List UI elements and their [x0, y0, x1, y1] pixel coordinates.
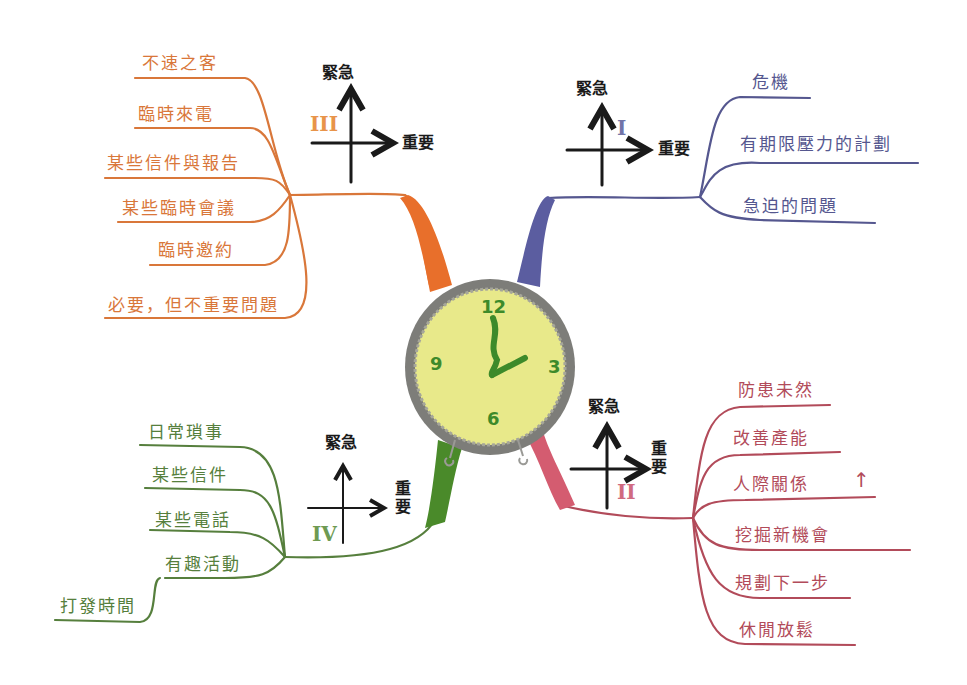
q2-item-4: 規劃下一步	[735, 573, 830, 593]
clock-number-3: 3	[548, 358, 561, 376]
q4-item-3: 有趣活動	[165, 554, 241, 574]
q1-axis-urgent-label: 緊急	[576, 80, 608, 98]
q2-item-3: 挖掘新機會	[735, 525, 830, 545]
clock-number-9: 9	[430, 355, 443, 373]
q2-up-arrow-icon: ↑	[853, 470, 872, 490]
q1-axis-important-label: 重要	[658, 140, 690, 158]
q4-item-2: 某些電話	[155, 510, 231, 530]
q2-item-2: 人際關係	[733, 474, 809, 494]
q4-numeral: IV	[312, 524, 337, 544]
clock-number-12: 12	[481, 298, 506, 316]
q3-item-3: 某些臨時會議	[122, 198, 236, 218]
q3-item-2: 某些信件與報告	[107, 153, 240, 173]
q1-numeral: I	[617, 118, 626, 138]
q2-item-1: 改善產能	[733, 428, 809, 448]
q3-item-5: 必要，但不重要問題	[108, 295, 279, 315]
q2-item-0: 防患未然	[738, 380, 814, 400]
q1-item-0: 危機	[752, 72, 790, 92]
clock-number-6: 6	[487, 410, 500, 428]
q3-item-0: 不速之客	[142, 53, 218, 73]
q3-item-4: 臨時邀約	[158, 240, 234, 260]
q1-item-2: 急迫的問題	[743, 196, 838, 216]
q4-axis-urgent-label: 緊急	[325, 434, 357, 452]
q2-numeral: II	[617, 482, 636, 502]
q3-axis-urgent-label: 緊急	[322, 64, 354, 82]
q2-axis-urgent-label: 緊急	[588, 398, 620, 416]
q3-numeral: III	[310, 114, 338, 134]
q4-item-0: 日常瑣事	[148, 422, 224, 442]
q2-axis-important-label: 重要	[648, 440, 666, 476]
q2-item-5: 休閒放鬆	[739, 620, 815, 640]
q4-item-4: 打發時間	[60, 596, 136, 616]
q1-item-1: 有期限壓力的計劃	[740, 134, 892, 154]
q3-axis-important-label: 重要	[402, 134, 434, 152]
q4-item-1: 某些信件	[152, 465, 228, 485]
q4-axis-important-label: 重要	[392, 480, 410, 516]
q3-item-1: 臨時來電	[138, 104, 214, 124]
q3-trunk	[400, 195, 452, 292]
q4-trunk	[425, 440, 462, 528]
clock-minute-hand	[492, 318, 497, 375]
q1-trunk	[517, 196, 555, 287]
